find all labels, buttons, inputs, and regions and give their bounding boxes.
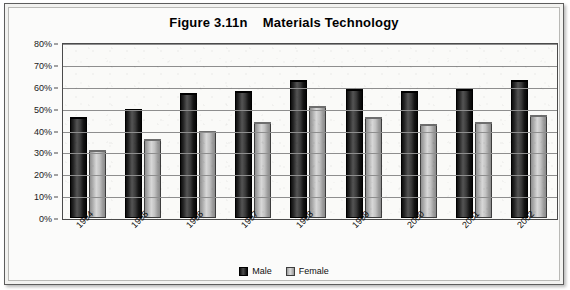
y-axis: 0%10%20%30%40%50%60%70%80%	[5, 43, 58, 220]
bar-cap	[456, 89, 473, 91]
bar-cap	[235, 91, 252, 93]
bar-male-1996	[180, 93, 197, 218]
bar-cap	[144, 139, 161, 141]
bar-female-1995	[144, 139, 161, 218]
chart-title: Figure 3.11n Materials Technology	[5, 15, 563, 30]
bar-cap	[401, 91, 418, 93]
bar-female-1997	[254, 122, 271, 218]
y-axis-tick-label: 0%	[39, 214, 52, 224]
figure-frame: Figure 3.11n Materials Technology 0%10%2…	[4, 3, 564, 285]
bar-cap	[511, 80, 528, 82]
chart-screenshot: Figure 3.11n Materials Technology 0%10%2…	[0, 0, 570, 290]
y-axis-tick-mark	[54, 153, 58, 154]
y-axis-tick-mark	[54, 65, 58, 66]
bar-female-1996	[199, 131, 216, 219]
y-axis-tick-mark	[54, 109, 58, 110]
y-axis-tick-mark	[54, 87, 58, 88]
legend-swatch-female-icon	[286, 267, 295, 276]
y-axis-tick-label: 60%	[34, 83, 52, 93]
bar-cap	[290, 80, 307, 82]
y-axis-tick-mark	[54, 197, 58, 198]
y-axis-tick-mark	[54, 131, 58, 132]
bar-cap	[70, 117, 87, 119]
y-axis-tick-label: 50%	[34, 105, 52, 115]
y-axis-tick-label: 80%	[34, 39, 52, 49]
bar-male-1995	[125, 109, 142, 218]
gridline	[63, 197, 557, 198]
bar-cap	[254, 122, 271, 124]
legend-item-female: Female	[286, 266, 329, 276]
gridline	[63, 66, 557, 67]
y-axis-tick-label: 70%	[34, 61, 52, 71]
bar-female-2000	[420, 124, 437, 218]
bar-cap	[475, 122, 492, 124]
gridline	[63, 44, 557, 45]
legend-label-female: Female	[299, 266, 329, 276]
gridline	[63, 175, 557, 176]
legend-swatch-male-icon	[239, 267, 248, 276]
plot-area	[62, 43, 558, 220]
bar-cap	[89, 150, 106, 152]
y-axis-tick-mark	[54, 44, 58, 45]
y-axis-tick-label: 30%	[34, 148, 52, 158]
gridline	[63, 132, 557, 133]
bar-cap	[530, 115, 547, 117]
bar-cap	[365, 117, 382, 119]
bar-female-2001	[475, 122, 492, 218]
gridline	[63, 153, 557, 154]
y-axis-tick-label: 20%	[34, 170, 52, 180]
bar-cap	[346, 89, 363, 91]
gridline	[63, 110, 557, 111]
legend-item-male: Male	[239, 266, 272, 276]
y-axis-tick-mark	[54, 219, 58, 220]
y-axis-tick-label: 10%	[34, 192, 52, 202]
x-axis: 199419951996199719981999200020012002	[62, 221, 558, 261]
bar-cap	[180, 93, 197, 95]
bar-cap	[420, 124, 437, 126]
plot-wrapper	[62, 43, 558, 220]
bar-cap	[309, 106, 326, 108]
gridline	[63, 88, 557, 89]
y-axis-tick-mark	[54, 175, 58, 176]
bar-female-1998	[309, 106, 326, 218]
bar-female-1994	[89, 150, 106, 218]
legend-label-male: Male	[252, 266, 272, 276]
y-axis-tick-label: 40%	[34, 127, 52, 137]
chart-legend: Male Female	[5, 266, 563, 276]
